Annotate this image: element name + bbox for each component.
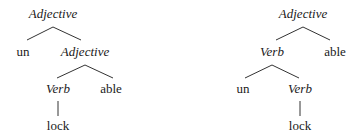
tree-diagram: Adjective un Adjective Verb able lock Ad… bbox=[0, 0, 363, 137]
right-edge-verb-un bbox=[245, 65, 272, 78]
left-lock-label: lock bbox=[47, 118, 70, 133]
left-tree: Adjective un Adjective Verb able lock bbox=[17, 6, 123, 133]
left-edge-adjective-able bbox=[85, 65, 113, 78]
left-able-label: able bbox=[100, 81, 122, 96]
right-tree: Adjective Verb able un Verb lock bbox=[237, 6, 347, 133]
right-edge-verb-verb bbox=[272, 65, 299, 78]
right-un-label: un bbox=[237, 81, 251, 96]
right-verb-label: Verb bbox=[260, 44, 284, 59]
right-root-label: Adjective bbox=[278, 6, 328, 21]
right-verb2-label: Verb bbox=[288, 81, 312, 96]
right-lock-label: lock bbox=[289, 118, 312, 133]
right-edge-root-verb bbox=[276, 27, 303, 40]
right-able-label: able bbox=[324, 44, 346, 59]
left-edge-root-adjective bbox=[53, 27, 81, 40]
left-edge-adjective-verb bbox=[57, 65, 85, 78]
left-root-label: Adjective bbox=[28, 6, 78, 21]
right-edge-root-able bbox=[303, 27, 330, 40]
left-adjective-label: Adjective bbox=[60, 44, 110, 59]
left-edge-root-un bbox=[27, 27, 53, 40]
left-un-label: un bbox=[17, 44, 31, 59]
left-verb-label: Verb bbox=[46, 81, 70, 96]
